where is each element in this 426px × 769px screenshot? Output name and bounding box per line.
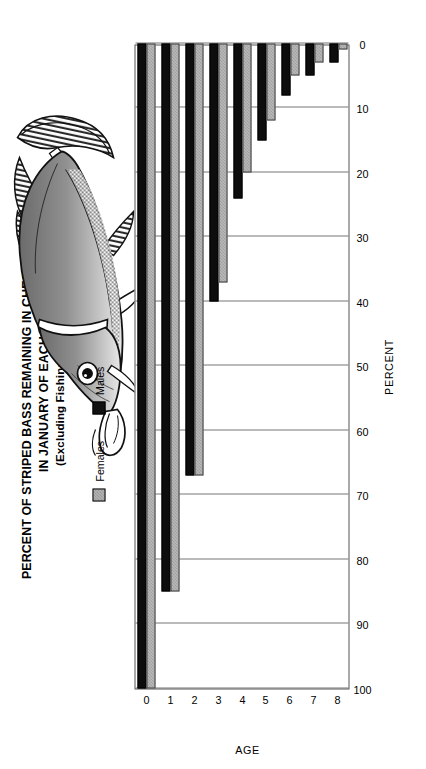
legend-item-males[interactable]: Males (92, 366, 105, 414)
age-tick-3: 3 (215, 694, 221, 706)
axis-label-percent: PERCENT (382, 44, 394, 689)
bar-males-age-2[interactable] (185, 43, 194, 475)
percent-axis-ticks: 0102030405060708090100 (356, 44, 378, 689)
legend-label-males: Males (93, 366, 105, 394)
percent-tick-80: 80 (356, 554, 368, 566)
percent-tick-50: 50 (356, 361, 368, 373)
bar-females-age-3[interactable] (218, 43, 227, 282)
plot-area (134, 44, 349, 689)
percent-tick-90: 90 (356, 619, 368, 631)
striped-bass-fish-icon (5, 109, 155, 469)
age-tick-8: 8 (334, 694, 340, 706)
bar-group-age-1 (159, 45, 183, 688)
percent-tick-0: 0 (359, 38, 365, 50)
age-tick-2: 2 (191, 694, 197, 706)
bar-males-age-6[interactable] (281, 43, 290, 95)
bar-group-age-5 (254, 45, 278, 688)
bar-males-age-8[interactable] (329, 43, 338, 62)
bar-group-age-3 (207, 45, 231, 688)
age-axis-ticks: 012345678 (134, 693, 349, 723)
bar-females-age-5[interactable] (266, 43, 275, 120)
percent-tick-10: 10 (356, 103, 368, 115)
bar-males-age-7[interactable] (305, 43, 314, 75)
chart-page: PERCENT OF STRIPED BASS REMAINING IN CHE… (0, 0, 426, 769)
bar-females-age-0[interactable] (146, 43, 155, 688)
age-tick-1: 1 (167, 694, 173, 706)
bar-females-age-2[interactable] (194, 43, 203, 475)
legend-item-females[interactable]: Females (92, 440, 105, 501)
bar-group-age-2 (183, 45, 207, 688)
percent-tick-70: 70 (356, 490, 368, 502)
age-tick-7: 7 (310, 694, 316, 706)
bar-males-age-0[interactable] (137, 43, 146, 688)
bar-females-age-8[interactable] (338, 43, 347, 49)
bar-males-age-1[interactable] (161, 43, 170, 591)
bar-males-age-5[interactable] (257, 43, 266, 140)
bar-males-age-3[interactable] (209, 43, 218, 301)
bar-group-age-0 (135, 45, 159, 688)
bar-females-age-1[interactable] (170, 43, 179, 591)
percent-tick-40: 40 (356, 296, 368, 308)
bar-group-age-4 (231, 45, 255, 688)
age-tick-5: 5 (262, 694, 268, 706)
legend: Females Males (92, 366, 105, 501)
bar-females-age-4[interactable] (242, 43, 251, 172)
age-tick-4: 4 (238, 694, 244, 706)
bars-layer (135, 45, 348, 688)
legend-swatch-males-icon (92, 401, 105, 414)
rotated-figure-stage: PERCENT OF STRIPED BASS REMAINING IN CHE… (0, 0, 426, 769)
axis-label-age: AGE (227, 743, 267, 755)
age-tick-0: 0 (143, 694, 149, 706)
age-tick-6: 6 (286, 694, 292, 706)
bar-group-age-8 (326, 45, 350, 688)
bar-females-age-7[interactable] (314, 43, 323, 62)
percent-tick-60: 60 (356, 425, 368, 437)
percent-tick-30: 30 (356, 232, 368, 244)
percent-tick-100: 100 (353, 683, 371, 695)
percent-tick-20: 20 (356, 167, 368, 179)
bar-group-age-6 (278, 45, 302, 688)
bar-males-age-4[interactable] (233, 43, 242, 198)
bar-group-age-7 (302, 45, 326, 688)
legend-swatch-females-icon (92, 488, 105, 501)
bar-females-age-6[interactable] (290, 43, 299, 75)
legend-label-females: Females (93, 440, 105, 481)
